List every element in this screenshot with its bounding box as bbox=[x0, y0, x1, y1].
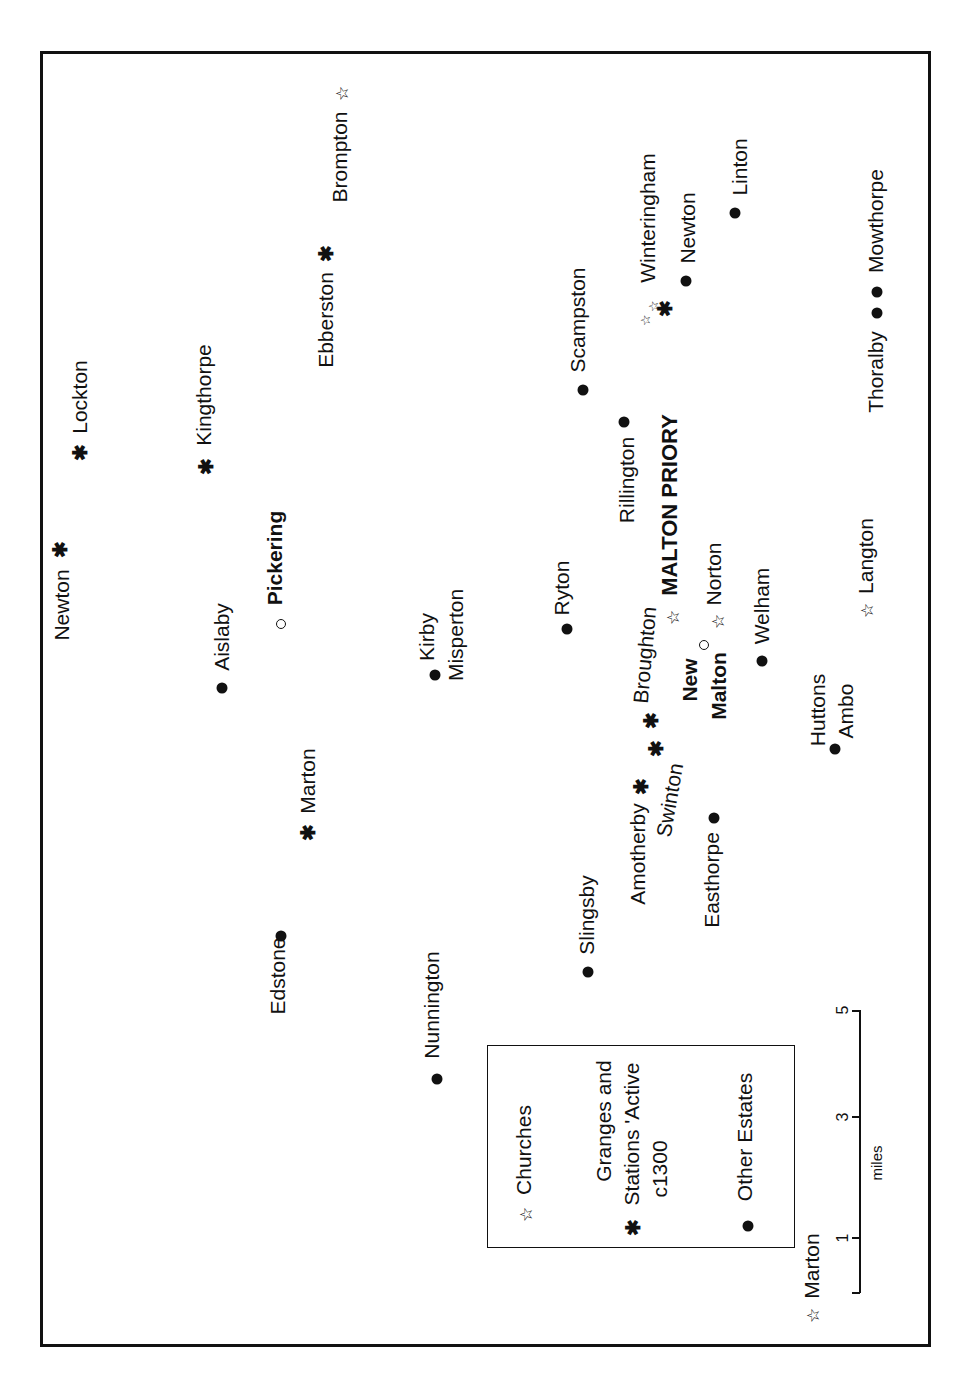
estate-dot-icon bbox=[432, 1074, 443, 1085]
place-slingsby: Slingsby bbox=[575, 875, 599, 954]
place-aislaby: Aislaby bbox=[210, 603, 234, 671]
place-linton: Linton bbox=[728, 138, 752, 195]
place-ryton: Ryton bbox=[550, 561, 574, 616]
legend-grange-icon: ✱ bbox=[623, 1219, 643, 1236]
legend-other-estates-label: Other Estates bbox=[733, 1073, 757, 1201]
town-circle-icon bbox=[699, 640, 709, 650]
grange-icon: ✱ bbox=[50, 541, 70, 558]
town-circle-icon bbox=[276, 619, 286, 629]
estate-dot-icon bbox=[578, 385, 589, 396]
legend-church-icon: ☆ bbox=[518, 1207, 535, 1222]
place-pickering: Pickering bbox=[263, 511, 287, 606]
place-ebberston: Ebberston bbox=[314, 272, 338, 368]
estate-dot-icon bbox=[583, 967, 594, 978]
place-rillington: Rillington bbox=[615, 437, 639, 523]
estate-dot-icon bbox=[217, 683, 228, 694]
estate-dot-icon bbox=[619, 417, 630, 428]
place-malton-priory: MALTON PRIORY bbox=[658, 414, 682, 596]
place-kingthorpe: Kingthorpe bbox=[192, 344, 216, 446]
place-welham: Welham bbox=[750, 568, 774, 645]
grange-icon: ✱ bbox=[655, 300, 675, 317]
place-marton-west: Marton bbox=[296, 748, 320, 813]
place-edstone: Edstone bbox=[266, 937, 290, 1014]
place-marton-south: Marton bbox=[800, 1233, 824, 1298]
place-huttons: Huttons bbox=[806, 674, 830, 746]
estate-dot-icon bbox=[562, 624, 573, 635]
place-kirby: Kirby bbox=[415, 613, 439, 661]
legend-estate-dot-icon bbox=[743, 1221, 754, 1232]
place-misperton: Misperton bbox=[444, 589, 468, 681]
scale-label-5: 5 bbox=[834, 1006, 852, 1015]
church-icon: ☆ bbox=[665, 610, 682, 625]
map-frame bbox=[40, 51, 931, 1347]
grange-icon: ✱ bbox=[196, 458, 216, 475]
church-icon: ☆ bbox=[805, 1308, 822, 1323]
place-lockton: Lockton bbox=[68, 360, 92, 434]
legend-churches-label: Churches bbox=[512, 1105, 536, 1195]
scale-bar bbox=[859, 1010, 861, 1293]
place-newton-north: Newton bbox=[50, 569, 74, 640]
church-icon: ☆ bbox=[710, 614, 727, 629]
church-icon: ☆ bbox=[859, 603, 876, 618]
estate-dot-icon bbox=[430, 670, 441, 681]
place-easthorpe: Easthorpe bbox=[700, 832, 724, 928]
place-malton: Malton bbox=[707, 652, 731, 720]
scale-tick-3 bbox=[852, 1116, 860, 1118]
place-new: New bbox=[678, 658, 702, 701]
grange-icon: ✱ bbox=[646, 740, 666, 757]
grange-icon: ✱ bbox=[641, 712, 661, 729]
church-icon: ☆ bbox=[334, 86, 351, 101]
place-ambo: Ambo bbox=[834, 684, 858, 739]
estate-dot-icon bbox=[730, 208, 741, 219]
estate-dot-icon bbox=[872, 308, 883, 319]
estate-dot-icon bbox=[276, 931, 287, 942]
scale-label-1: 1 bbox=[834, 1234, 852, 1243]
place-amotherby: Amotherby bbox=[626, 803, 650, 905]
grange-icon: ✱ bbox=[298, 824, 318, 841]
place-scampston: Scampston bbox=[566, 267, 590, 372]
place-norton: Norton bbox=[702, 542, 726, 605]
estate-dot-icon bbox=[872, 287, 883, 298]
place-thoralby: Thoralby bbox=[864, 331, 888, 413]
scale-tick-0 bbox=[852, 1292, 860, 1294]
grange-icon: ✱ bbox=[316, 245, 336, 262]
estate-dot-icon bbox=[757, 656, 768, 667]
place-winteringham: Winteringham bbox=[636, 153, 660, 283]
place-langton: Langton bbox=[854, 518, 878, 594]
estate-dot-icon bbox=[681, 276, 692, 287]
legend-granges-line2: Stations 'Active bbox=[620, 1063, 644, 1206]
place-newton-east: Newton bbox=[676, 192, 700, 263]
scale-tick-1 bbox=[852, 1237, 860, 1239]
place-mowthorpe: Mowthorpe bbox=[864, 169, 888, 273]
estate-dot-icon bbox=[830, 744, 841, 755]
place-brompton: Brompton bbox=[328, 111, 352, 202]
grange-icon: ✱ bbox=[70, 444, 90, 461]
place-nunnington: Nunnington bbox=[420, 951, 444, 1058]
grange-icon: ✱ bbox=[631, 778, 651, 795]
scale-unit-label: miles bbox=[868, 1145, 885, 1180]
church-icon: ☆ bbox=[639, 314, 652, 326]
legend-granges-line3: c1300 bbox=[648, 1140, 672, 1197]
scale-label-3: 3 bbox=[834, 1113, 852, 1122]
legend-granges-line1: Granges and bbox=[592, 1060, 616, 1181]
estate-dot-icon bbox=[709, 813, 720, 824]
scale-tick-5 bbox=[852, 1010, 860, 1012]
